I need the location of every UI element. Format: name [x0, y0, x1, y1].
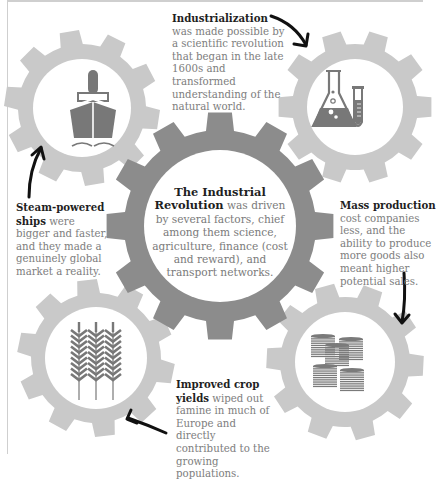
industrialization-heading: Industrialization [172, 12, 268, 24]
wheat-icon [71, 322, 121, 400]
center-heading-line1: The Industrial [174, 185, 266, 199]
crop-yields-body: wiped out famine in much of Europe and d… [176, 393, 270, 480]
industrialization-body: was made possible by a scientific revolu… [172, 26, 284, 113]
steam-ships-callout: Steam-powered ships were bigger and fast… [16, 201, 108, 279]
mass-production-body: cost companies less, and the ability to … [340, 213, 431, 287]
mass-production-heading: Mass production [340, 199, 436, 211]
central-message: The Industrial Revolution was driven by … [152, 186, 288, 280]
center-heading-line2: Revolution [155, 198, 224, 212]
industrialization-callout: Industrialization was made possible by a… [172, 12, 292, 114]
mass-production-callout: Mass production cost companies less, and… [340, 199, 436, 288]
coins-gear [266, 284, 424, 440]
crop-yields-callout: Improved crop yields wiped out famine in… [176, 378, 276, 481]
